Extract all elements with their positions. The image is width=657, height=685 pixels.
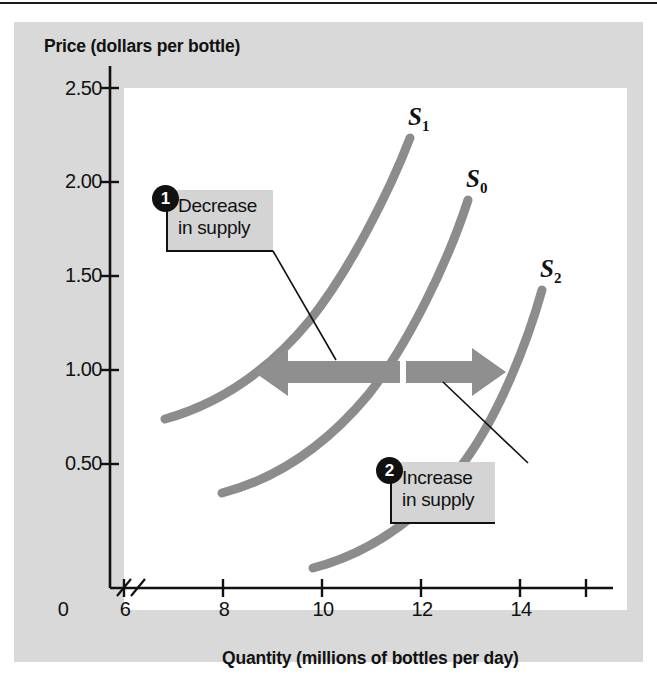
callout-decrease-in-supply: Decrease in supply xyxy=(166,190,273,252)
callout-two-line-1: Increase xyxy=(402,467,485,489)
callout-two-badge: 2 xyxy=(376,457,403,484)
supply-shift-figure: Price (dollars per bottle) Quantity (mil… xyxy=(0,0,657,685)
callout-one-line-2: in supply xyxy=(178,217,263,239)
supply-curve-s2 xyxy=(313,290,542,568)
curve-label-s1: S1 xyxy=(408,103,429,135)
curve-label-s0-letter: S xyxy=(466,165,480,192)
curve-label-s0-subscript: 0 xyxy=(480,180,488,196)
curve-label-s0: S0 xyxy=(466,165,487,197)
callout-two-line-2: in supply xyxy=(402,489,485,511)
curve-label-s1-letter: S xyxy=(408,103,422,130)
callout-two-leader-line xyxy=(443,382,528,463)
increase-supply-arrow xyxy=(406,348,506,396)
callout-one-line-1: Decrease xyxy=(178,195,263,217)
curve-label-s2-subscript: 2 xyxy=(554,270,562,286)
axis-lines xyxy=(110,66,613,588)
curve-label-s2: S2 xyxy=(540,255,561,287)
curve-label-s2-letter: S xyxy=(540,255,554,282)
curve-label-s1-subscript: 1 xyxy=(422,118,430,134)
callout-one-badge: 1 xyxy=(152,185,179,212)
callout-increase-in-supply: Increase in supply xyxy=(390,462,495,524)
